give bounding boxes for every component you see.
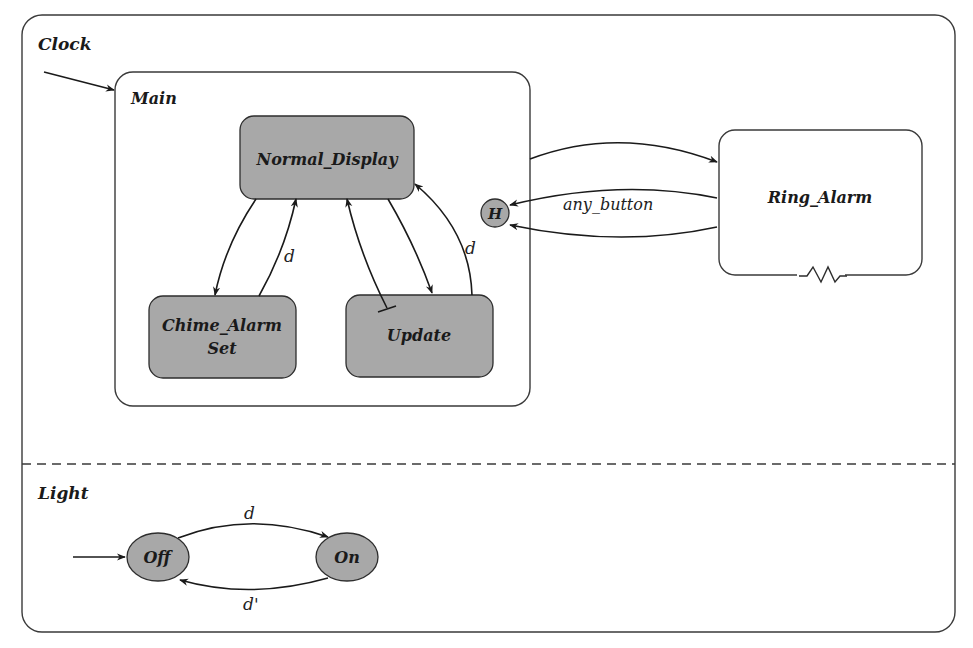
off-to-on-event: d xyxy=(244,503,255,523)
history-connector[interactable]: H xyxy=(481,199,509,227)
normal-display-label: Normal_Display xyxy=(256,150,400,169)
chime-alarm-label-line2: Set xyxy=(207,339,237,358)
history-label: H xyxy=(487,205,503,223)
update-label: Update xyxy=(387,326,451,345)
light-label: Light xyxy=(37,483,89,503)
state-normal-display[interactable]: Normal_Display xyxy=(240,116,414,199)
chime-to-normal-event: d xyxy=(284,246,295,266)
state-off[interactable]: Off xyxy=(127,533,189,581)
update-to-normal-event: d xyxy=(465,238,476,258)
chime-alarm-label-line1: Chime_Alarm xyxy=(162,316,282,335)
state-update[interactable]: Update xyxy=(346,295,493,377)
ring-alarm-label: Ring_Alarm xyxy=(767,188,872,207)
main-label: Main xyxy=(130,89,177,108)
state-on[interactable]: On xyxy=(316,533,378,581)
state-ring-alarm[interactable]: Ring_Alarm xyxy=(719,130,922,282)
off-label: Off xyxy=(143,548,173,567)
state-chime-alarm-set[interactable]: Chime_Alarm Set xyxy=(149,296,296,378)
on-label: On xyxy=(334,548,360,567)
any-button-event: any_button xyxy=(563,195,653,214)
clock-label: Clock xyxy=(38,34,91,54)
statechart-diagram: Clock Main Normal_Display Chime_Alarm Se… xyxy=(0,0,973,648)
on-to-off-event: d' xyxy=(243,594,259,614)
